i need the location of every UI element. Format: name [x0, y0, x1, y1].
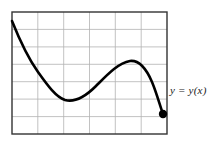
- curve-label: y = y(x): [170, 84, 207, 96]
- curve-endpoint-dot: [159, 110, 167, 118]
- graph-figure: y = y(x): [0, 0, 217, 142]
- plot-canvas: [0, 0, 217, 142]
